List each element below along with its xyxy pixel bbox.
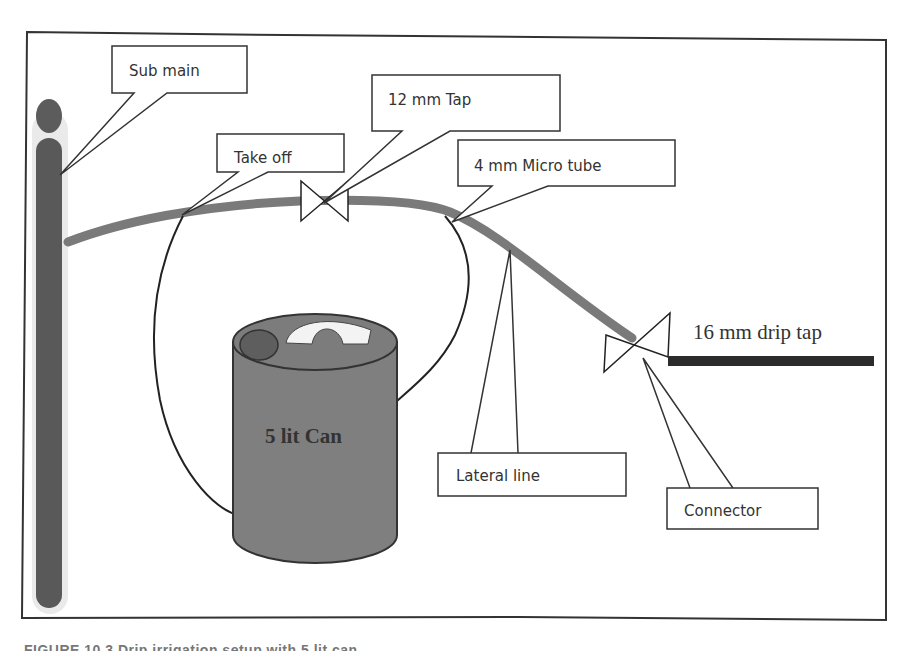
- drip-tap-16mm-line: [668, 356, 874, 366]
- figure-caption: FIGURE 10.3 Drip irrigation setup with 5…: [24, 643, 358, 651]
- can-cap-icon: [240, 330, 278, 360]
- drip-irrigation-diagram: 16 mm drip tap 5 lit Can Sub main 12 mm …: [0, 0, 912, 651]
- drip-tap-16mm-label: 16 mm drip tap: [693, 320, 822, 344]
- can-5-litre: 5 lit Can: [233, 314, 397, 563]
- svg-text:12 mm Tap: 12 mm Tap: [388, 91, 471, 109]
- svg-text:Connector: Connector: [684, 502, 762, 520]
- sub-main-pipe: [32, 99, 68, 614]
- svg-text:Take off: Take off: [233, 149, 292, 167]
- svg-text:Sub main: Sub main: [129, 62, 200, 80]
- svg-text:4 mm Micro tube: 4 mm Micro tube: [474, 157, 602, 175]
- can-label: 5 lit Can: [265, 424, 342, 448]
- svg-text:Lateral line: Lateral line: [456, 467, 540, 485]
